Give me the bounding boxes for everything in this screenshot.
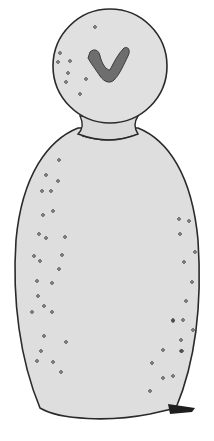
bottle-figure-illustration bbox=[0, 0, 214, 441]
base-shadow bbox=[168, 404, 195, 414]
figure-head bbox=[53, 9, 167, 123]
